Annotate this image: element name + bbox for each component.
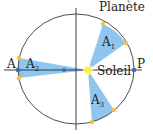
- label-perihelion: P: [137, 57, 145, 71]
- kepler-diagram: Planète Soleil A P A1 A2 A3: [0, 0, 153, 135]
- aphelion-point: [16, 68, 21, 73]
- planet-point-a3-end: [90, 120, 94, 124]
- planet-point-a3-start: [112, 108, 116, 112]
- label-aphelion: A: [6, 57, 16, 71]
- label-sun: Soleil: [97, 64, 131, 78]
- label-planet: Planète: [99, 0, 145, 14]
- planet-point-a1-start: [101, 22, 105, 26]
- sun-icon: [85, 67, 91, 73]
- empty-focus-point: [62, 68, 66, 72]
- perihelion-point: [132, 68, 137, 73]
- planet-point-a1-end: [124, 41, 128, 45]
- label-area-2: A2: [25, 57, 39, 73]
- planet-point-a2-start: [17, 56, 21, 60]
- planet-point-a2-end: [17, 76, 21, 80]
